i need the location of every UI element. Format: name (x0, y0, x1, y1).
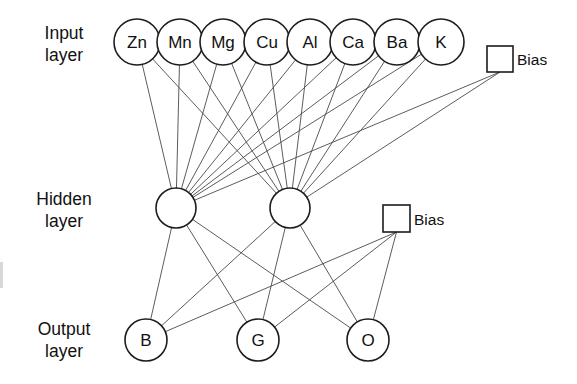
network-graph-canvas: ZnMnMgCuAlCaBaK BGO BiasBias (0, 0, 577, 384)
hidden-layer-nodes (156, 188, 310, 228)
edge-input-ba-to-hidden-2 (301, 61, 385, 191)
input-node-label-cu: Cu (256, 33, 278, 52)
output-node-label-b: B (140, 331, 151, 350)
edge-hidden-1-to-output-o (192, 219, 350, 328)
input-node-label-k: K (435, 33, 447, 52)
input-layer-nodes: ZnMnMgCuAlCaBaK (114, 19, 464, 65)
input-bias-label: Bias (517, 51, 547, 68)
edge-hidden-1-to-output-b (151, 228, 172, 320)
edge-input-zn-to-hidden-1 (142, 64, 171, 188)
edge-input-k-to-hidden-2 (303, 59, 425, 193)
edge-input-mg-to-hidden-2 (232, 63, 283, 189)
edge-input-cu-to-hidden-1 (186, 62, 256, 190)
edge-input-mn-to-hidden-1 (176, 65, 179, 188)
bias-nodes: BiasBias (383, 46, 547, 232)
hidden-node-2[interactable] (270, 188, 310, 228)
edge-hidden-1-to-output-g (187, 225, 247, 322)
input-bias-node[interactable] (487, 46, 513, 72)
edge-hidden-bias-to-output-o (373, 232, 396, 320)
hidden-to-output-edges (151, 219, 397, 331)
neural-network-diagram: Input layer Hidden layer Output layer Zn… (0, 0, 577, 384)
output-node-label-o: O (361, 331, 374, 350)
hidden-bias-label: Bias (414, 211, 444, 228)
hidden-node-1[interactable] (156, 188, 196, 228)
input-node-label-mg: Mg (211, 33, 235, 52)
hidden-bias-node[interactable] (383, 205, 410, 232)
input-node-label-ba: Ba (387, 33, 408, 52)
input-node-label-ca: Ca (342, 33, 364, 52)
edge-hidden-bias-to-output-g (275, 232, 397, 327)
output-layer-nodes: BGO (125, 319, 389, 361)
input-to-hidden-edges (142, 54, 500, 200)
edge-input-ca-to-hidden-2 (297, 64, 345, 190)
edge-hidden-2-to-output-g (263, 227, 285, 319)
edge-hidden-2-to-output-o (300, 225, 357, 322)
edge-input-zn-to-hidden-2 (153, 59, 277, 193)
output-node-label-g: G (251, 331, 264, 350)
input-node-label-zn: Zn (127, 33, 147, 52)
input-node-label-mn: Mn (168, 33, 192, 52)
edge-input-mg-to-hidden-1 (181, 64, 216, 189)
edge-input-bias-to-hidden-2 (307, 72, 500, 197)
input-node-label-al: Al (302, 33, 317, 52)
edge-input-k-to-hidden-1 (193, 54, 422, 197)
